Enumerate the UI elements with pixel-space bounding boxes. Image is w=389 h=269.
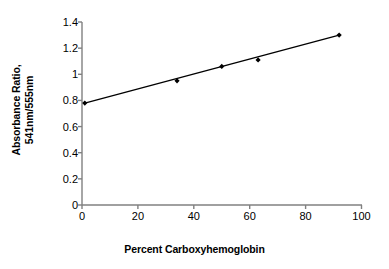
- axes: [82, 22, 362, 205]
- data-point-marker: [82, 100, 87, 105]
- data-point-marker: [255, 57, 260, 62]
- trendline-path: [85, 35, 339, 103]
- plot-area: [0, 0, 389, 269]
- x-axis-title: Percent Carboxyhemoglobin: [0, 243, 389, 255]
- trendline: [85, 35, 339, 103]
- data-point-marker: [337, 32, 342, 37]
- chart-container: Absorbance Ratio, 541nm/555nm 00.20.40.6…: [0, 0, 389, 269]
- data-point-marker: [219, 64, 224, 69]
